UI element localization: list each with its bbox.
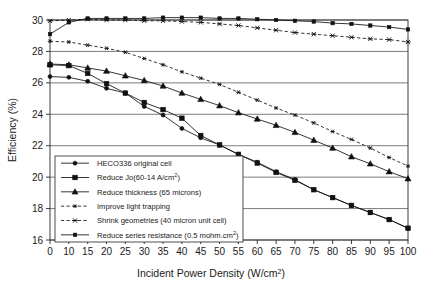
marker-square-1-13 bbox=[293, 178, 298, 183]
legend-label-3: Improve light trapping bbox=[97, 202, 170, 211]
marker-square-small-5-16 bbox=[350, 22, 353, 25]
marker-square-small-5-4 bbox=[124, 17, 127, 20]
x-tick-label-75: 75 bbox=[308, 246, 320, 257]
marker-square-small-5-15 bbox=[331, 21, 334, 24]
marker-square-small-5-1 bbox=[67, 21, 70, 24]
marker-circle-0-6 bbox=[161, 113, 165, 117]
marker-square-small-5-12 bbox=[274, 18, 277, 21]
marker-square-1-16 bbox=[349, 203, 354, 208]
marker-circle-legend-0 bbox=[73, 161, 77, 165]
x-tick-label-0: 0 bbox=[47, 246, 53, 257]
x-axis-title: Incident Power Density (W/cm2) bbox=[137, 267, 285, 279]
marker-square-1-9 bbox=[217, 143, 222, 148]
marker-square-small-legend-5 bbox=[73, 233, 76, 236]
marker-square-1-7 bbox=[180, 116, 185, 121]
marker-square-1-4 bbox=[123, 91, 128, 96]
x-tick-label-80: 80 bbox=[327, 246, 339, 257]
marker-square-small-5-6 bbox=[161, 16, 164, 19]
marker-square-1-5 bbox=[142, 100, 147, 105]
x-tick-label-40: 40 bbox=[176, 246, 188, 257]
marker-square-1-19 bbox=[406, 226, 411, 231]
x-tick-label-60: 60 bbox=[252, 246, 264, 257]
marker-square-1-17 bbox=[368, 210, 373, 215]
marker-square-small-5-2 bbox=[86, 17, 89, 20]
chart-legend: HECO336 original cellReduce Jo(60-14 A/c… bbox=[55, 156, 243, 242]
x-tick-label-45: 45 bbox=[195, 246, 207, 257]
marker-square-small-5-13 bbox=[293, 19, 296, 22]
marker-square-1-3 bbox=[104, 81, 109, 86]
marker-square-small-5-0 bbox=[48, 32, 51, 35]
y-axis-title: Efficiency (%) bbox=[6, 98, 18, 162]
y-tick-label-28: 28 bbox=[32, 46, 44, 57]
marker-circle-0-1 bbox=[67, 75, 71, 79]
x-tick-label-65: 65 bbox=[271, 246, 283, 257]
marker-square-1-14 bbox=[311, 187, 316, 192]
legend-label-4: Shrink geometries (40 micron unit cell) bbox=[97, 216, 227, 225]
marker-circle-0-7 bbox=[180, 126, 184, 130]
marker-square-1-6 bbox=[161, 107, 166, 112]
marker-square-small-5-3 bbox=[105, 17, 108, 20]
x-tick-label-70: 70 bbox=[289, 246, 301, 257]
y-tick-label-16: 16 bbox=[32, 235, 44, 246]
x-tick-label-30: 30 bbox=[139, 246, 151, 257]
marker-square-1-11 bbox=[255, 161, 260, 166]
x-tick-label-100: 100 bbox=[400, 246, 417, 257]
efficiency-vs-power-density-chart: 0101520253035404550556065707580859095100… bbox=[0, 0, 423, 292]
y-tick-label-18: 18 bbox=[32, 203, 44, 214]
marker-square-small-5-7 bbox=[180, 16, 183, 19]
marker-circle-0-2 bbox=[86, 79, 90, 83]
marker-square-small-5-17 bbox=[369, 24, 372, 27]
marker-square-1-8 bbox=[198, 133, 203, 138]
x-tick-label-35: 35 bbox=[157, 246, 169, 257]
marker-square-small-5-19 bbox=[406, 28, 409, 31]
marker-square-small-5-11 bbox=[256, 18, 259, 21]
x-tick-label-20: 20 bbox=[101, 246, 113, 257]
legend-label-0: HECO336 original cell bbox=[97, 159, 172, 168]
legend-label-5: Reduce series resistance (0.5 mohm.cm2) bbox=[97, 230, 239, 240]
marker-square-legend-1 bbox=[73, 175, 78, 180]
marker-square-1-12 bbox=[274, 170, 279, 175]
x-tick-label-25: 25 bbox=[120, 246, 132, 257]
marker-circle-0-0 bbox=[48, 75, 52, 79]
marker-circle-0-3 bbox=[105, 86, 109, 90]
y-tick-label-22: 22 bbox=[32, 140, 44, 151]
x-tick-label-95: 95 bbox=[384, 246, 396, 257]
x-tick-label-85: 85 bbox=[346, 246, 358, 257]
legend-label-1: Reduce Jo(60-14 A/cm2) bbox=[97, 172, 180, 182]
y-tick-label-26: 26 bbox=[32, 77, 44, 88]
y-tick-label-24: 24 bbox=[32, 109, 44, 120]
legend-background bbox=[55, 156, 243, 242]
marker-square-small-5-8 bbox=[199, 16, 202, 19]
marker-square-1-2 bbox=[85, 71, 90, 76]
x-tick-label-55: 55 bbox=[233, 246, 245, 257]
marker-square-small-5-14 bbox=[312, 20, 315, 23]
y-tick-label-20: 20 bbox=[32, 172, 44, 183]
marker-square-small-5-9 bbox=[218, 17, 221, 20]
marker-square-small-5-10 bbox=[237, 17, 240, 20]
marker-square-1-15 bbox=[330, 195, 335, 200]
marker-square-1-18 bbox=[387, 217, 392, 222]
legend-label-2: Reduce thickness (65 microns) bbox=[97, 188, 202, 197]
x-tick-label-90: 90 bbox=[365, 246, 377, 257]
y-tick-label-30: 30 bbox=[32, 15, 44, 26]
x-tick-label-50: 50 bbox=[214, 246, 226, 257]
marker-square-small-5-18 bbox=[387, 25, 390, 28]
marker-square-small-5-5 bbox=[143, 17, 146, 20]
x-tick-label-10: 10 bbox=[63, 246, 75, 257]
chart-figure: 0101520253035404550556065707580859095100… bbox=[0, 0, 423, 292]
x-tick-label-15: 15 bbox=[82, 246, 94, 257]
